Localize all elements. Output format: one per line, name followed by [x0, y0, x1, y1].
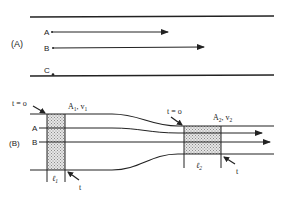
panel-a: (A) A B C	[11, 16, 274, 76]
panel-b: (B) A B t = o A1, v1 ℓ1 t t = o A2, v2 ℓ…	[9, 99, 274, 192]
left-time-start-label: t = o	[12, 99, 27, 108]
streamline-b-label: B	[44, 44, 49, 53]
streamline-c-label: C	[44, 66, 50, 75]
pipe-upper-wall	[30, 114, 274, 126]
right-time-end-label: t	[236, 167, 239, 176]
left-time-end-label: t	[79, 183, 82, 192]
velocity-arrow-b	[53, 47, 204, 48]
streamline-c-dot	[52, 73, 55, 76]
right-time-start-pointer-icon	[171, 117, 182, 125]
streamline-a-label-b: A	[32, 124, 38, 133]
lower-wall	[30, 75, 274, 76]
flow-diagram: (A) A B C (B) A B t = o A1,	[0, 0, 287, 199]
fluid-element-right	[184, 126, 221, 154]
left-area-velocity-label: A1, v1	[68, 102, 88, 112]
right-area-velocity-label: A2, v2	[213, 113, 233, 123]
streamline-a-label: A	[44, 28, 50, 37]
panel-b-label: (B)	[9, 139, 20, 148]
left-length-label: ℓ1	[52, 174, 58, 184]
left-time-start-pointer-icon	[33, 106, 45, 113]
left-time-end-pointer-icon	[68, 172, 79, 180]
right-time-end-pointer-icon	[224, 157, 235, 164]
right-time-start-label: t = o	[167, 107, 182, 116]
right-length-label: ℓ2	[196, 161, 202, 171]
streamline-b-label-b: B	[32, 138, 37, 147]
upper-wall	[30, 16, 274, 17]
streamline-a	[39, 128, 262, 133]
panel-a-label: (A)	[11, 39, 23, 49]
